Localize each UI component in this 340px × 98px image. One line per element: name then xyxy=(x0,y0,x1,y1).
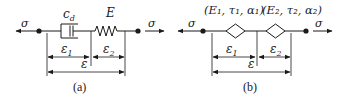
panel-b: σ σ (E₁, τ₁, α₁) (E₂, τ₂, α₂) ε1 ε2 ε (b… xyxy=(178,3,332,94)
dashpot-icon xyxy=(61,24,91,38)
stress-label-right: σ xyxy=(315,17,323,30)
caption-a: (a) xyxy=(73,80,86,94)
spring-label: E xyxy=(105,6,115,20)
stress-label-right: σ xyxy=(148,17,156,30)
strain-2-label: ε2 xyxy=(270,42,282,58)
strain-total-label: ε xyxy=(81,57,87,71)
stress-label-left: σ xyxy=(188,17,196,30)
element-1-diamond-icon xyxy=(226,24,245,38)
strain-1-label: ε1 xyxy=(226,42,238,58)
strain-2-label: ε2 xyxy=(103,42,115,58)
element-2-params: (E₂, τ₂, α₂) xyxy=(262,3,322,17)
spring-icon xyxy=(91,26,138,36)
node-right xyxy=(135,28,140,33)
strain-total-label: ε xyxy=(248,57,254,71)
strain-1-label: ε1 xyxy=(61,42,73,58)
element-2-diamond-icon xyxy=(266,24,285,38)
dashpot-label: cd xyxy=(63,7,75,23)
stress-label-left: σ xyxy=(21,17,29,30)
caption-b: (b) xyxy=(243,80,257,94)
node-right xyxy=(303,28,308,33)
element-1-params: (E₁, τ₁, α₁) xyxy=(204,3,264,17)
panel-a: σ cd E σ ε1 ε2 ε (a) xyxy=(16,6,164,94)
rheological-models-figure: σ cd E σ ε1 ε2 ε (a) xyxy=(0,0,340,98)
